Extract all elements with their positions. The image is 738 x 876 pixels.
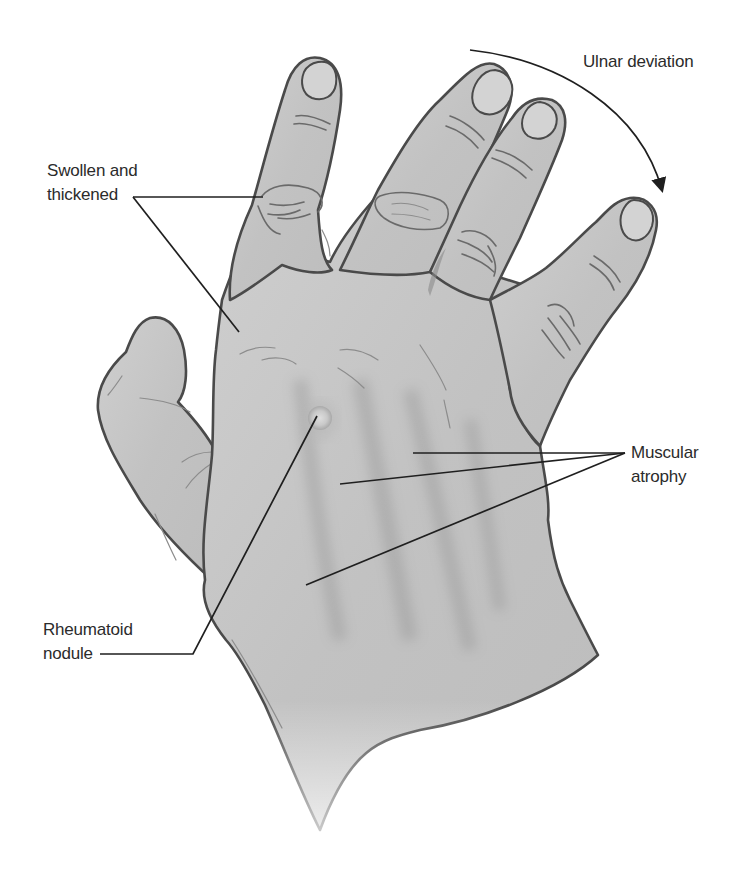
hand-illustration [0,0,738,876]
label-nodule-line2: nodule [43,642,133,666]
label-swollen-line2: thickened [47,183,137,207]
thumb [98,317,216,580]
label-muscular-line1: Muscular [631,441,698,465]
label-rheumatoid-nodule: Rheumatoid nodule [43,618,133,666]
label-swollen-thickened: Swollen and thickened [47,159,137,207]
label-muscular-line2: atrophy [631,465,698,489]
index-finger [230,57,341,300]
label-ulnar-deviation: Ulnar deviation [583,50,693,74]
label-muscular-atrophy: Muscular atrophy [631,441,698,489]
label-ulnar-deviation-text: Ulnar deviation [583,50,693,74]
label-swollen-line1: Swollen and [47,159,137,183]
label-nodule-line1: Rheumatoid [43,618,133,642]
